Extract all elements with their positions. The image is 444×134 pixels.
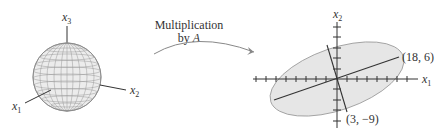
- ellipse-x2-label: x2: [332, 7, 342, 23]
- point-label-3-neg9: (3, −9): [346, 112, 379, 126]
- curved-arrow: [154, 41, 254, 54]
- point-label-18-6: (18, 6): [402, 50, 434, 64]
- arrow-label-line1: Multiplication: [155, 18, 224, 32]
- sphere-figure: x3 x2 x1: [11, 10, 139, 115]
- ellipse-x1-label: x1: [421, 72, 431, 88]
- transformation-arrow: Multiplication by A: [154, 18, 254, 55]
- arrow-label-line2: by A: [178, 31, 201, 45]
- arrowhead-icon: [247, 47, 254, 55]
- x2-axis: [100, 85, 126, 90]
- sphere-x2-label: x2: [129, 83, 139, 99]
- sphere-x1-label: x1: [11, 99, 21, 115]
- sphere-x3-label: x3: [61, 10, 71, 26]
- ellipse-figure: x2 x1 (18, 6) (3, −9): [253, 7, 434, 131]
